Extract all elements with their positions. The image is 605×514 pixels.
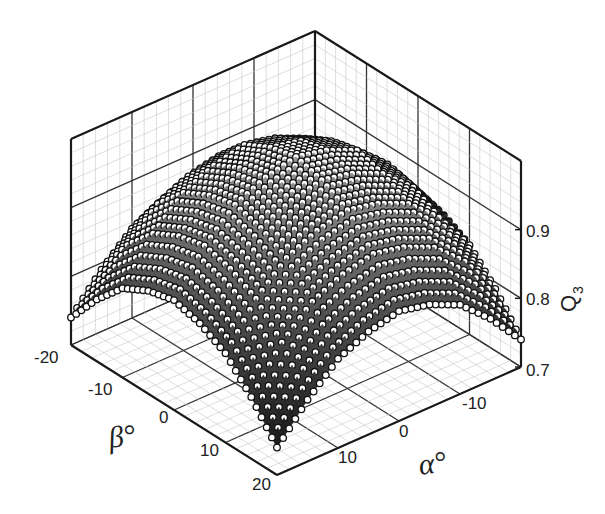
data-point-marker [316,380,323,387]
beta-tick-label: -10 [88,380,113,399]
data-point-marker [269,434,276,441]
data-point-marker [359,334,366,341]
data-point-marker [243,385,250,392]
beta-axis-label: β° [105,418,137,455]
data-point-marker [298,406,305,413]
data-point-marker [353,339,360,346]
data-point-marker [274,444,281,451]
data-point-marker [518,336,525,343]
data-point-marker [258,414,265,421]
data-point-marker [207,332,214,339]
data-point-marker [292,416,299,423]
z-axis-label: Q 3 [556,286,586,312]
data-point-marker [280,435,287,442]
data-point-marker [512,332,519,339]
surface-markers [68,135,525,451]
data-point-marker [384,316,391,323]
data-point-marker [227,359,234,366]
data-point-marker [217,344,224,351]
z-axis-label-main: Q [556,295,581,312]
data-point-marker [304,396,311,403]
data-point-marker [390,312,397,319]
z-tick-label: 0.8 [526,290,550,309]
data-point-marker [329,364,336,371]
data-point-marker [323,372,330,379]
data-point-marker [212,338,219,345]
z-tick-label: 0.9 [526,222,550,241]
data-point-marker [253,404,260,411]
beta-tick-label: 10 [200,441,219,460]
data-point-marker [248,394,255,401]
beta-tick-label: 20 [252,475,271,494]
alpha-tick-label: 10 [338,448,357,467]
data-point-marker [263,424,270,431]
beta-tick-label: 0 [159,408,168,427]
data-point-marker [341,350,348,357]
z-tick-label: 0.7 [526,361,550,380]
beta-tick-label: -20 [34,348,59,367]
data-point-marker [499,324,506,331]
data-point-marker [506,328,513,335]
data-point-marker [371,324,378,331]
data-point-marker [233,367,240,374]
data-point-marker [286,425,293,432]
alpha-tick-label: 0 [399,422,408,441]
data-point-marker [202,326,209,333]
alpha-tick-label: -10 [462,394,487,413]
data-point-marker [347,345,354,352]
data-point-marker [222,350,229,357]
data-point-marker [493,320,500,327]
data-point-marker [396,308,403,315]
data-point-marker [377,320,384,327]
alpha-axis-label: α° [416,444,448,481]
q3-surface-chart: -20 -10 0 10 20 10 0 -10 0.7 0.8 0.9 β° … [0,0,605,514]
data-point-marker [197,320,204,327]
z-axis-label-sub: 3 [570,286,586,294]
data-point-marker [238,376,245,383]
data-point-marker [365,328,372,335]
data-point-marker [310,388,317,395]
data-point-marker [335,355,342,362]
